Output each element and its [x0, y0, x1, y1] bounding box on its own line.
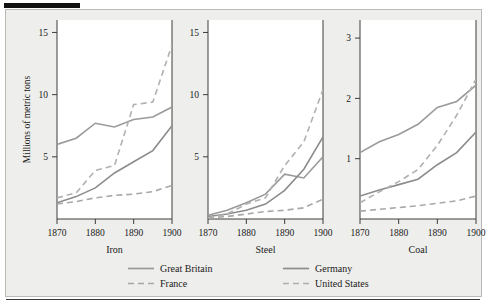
y-tick-label-iron-15: 15 [39, 28, 49, 38]
y-tick-label-coal-1: 1 [346, 154, 351, 164]
x-tick-label-iron-1880: 1880 [86, 228, 105, 238]
y-tick-label-steel-15: 15 [190, 28, 200, 38]
x-tick-label-coal-1870: 1870 [351, 228, 370, 238]
panel-title-steel: Steel [256, 244, 276, 255]
panel-title-iron: Iron [106, 244, 123, 255]
y-tick-label-iron-5: 5 [43, 152, 48, 162]
y-tick-label-steel-5: 5 [194, 152, 199, 162]
panel-steel: 510151870188018901900Steel [190, 20, 333, 255]
panel-background-iron [57, 20, 172, 219]
panel-title-coal: Coal [409, 244, 428, 255]
y-tick-label-coal-2: 2 [346, 94, 351, 104]
x-tick-label-iron-1870: 1870 [48, 228, 67, 238]
legend-label-germany: Germany [315, 263, 352, 274]
bottom-hairline [6, 299, 480, 300]
x-tick-label-iron-1890: 1890 [124, 228, 143, 238]
legend-label-france: France [160, 278, 188, 289]
legend-label-united-states: United States [315, 278, 369, 289]
panel-background-coal [360, 20, 476, 219]
y-tick-label-steel-10: 10 [190, 90, 200, 100]
x-tick-label-steel-1890: 1890 [275, 228, 294, 238]
y-axis-title: Millions of metric tons [22, 76, 32, 164]
legend-label-great-britain: Great Britain [160, 263, 212, 274]
panel-coal: 1231870188018901900Coal [346, 20, 486, 255]
x-tick-label-steel-1880: 1880 [237, 228, 256, 238]
figure-root: 510151870188018901900Iron510151870188018… [0, 0, 486, 308]
x-tick-label-iron-1900: 1900 [163, 228, 182, 238]
x-tick-label-steel-1870: 1870 [199, 228, 218, 238]
panel-background-steel [208, 20, 323, 219]
y-tick-label-iron-10: 10 [39, 90, 49, 100]
y-tick-label-coal-3: 3 [346, 33, 351, 43]
panel-iron: 510151870188018901900Iron [39, 20, 182, 255]
legend: Great BritainGermanyFranceUnited States [128, 263, 369, 289]
x-tick-label-coal-1890: 1890 [428, 228, 447, 238]
x-tick-label-coal-1880: 1880 [389, 228, 408, 238]
x-tick-label-coal-1900: 1900 [467, 228, 486, 238]
x-tick-label-steel-1900: 1900 [314, 228, 333, 238]
small-multiples-line-chart: 510151870188018901900Iron510151870188018… [0, 0, 486, 308]
